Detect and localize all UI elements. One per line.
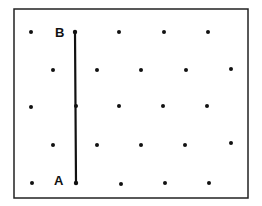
grid-dot: [117, 104, 121, 108]
grid-dot: [139, 68, 143, 72]
grid-dot: [206, 30, 210, 34]
grid-dot: [29, 30, 33, 34]
grid-dot: [229, 141, 233, 145]
diagram-frame: [14, 9, 248, 198]
grid-dot: [119, 182, 123, 186]
grid-dot: [207, 181, 211, 185]
grid-dot: [29, 105, 33, 109]
grid-dot: [183, 143, 187, 147]
grid-dot: [139, 143, 143, 147]
grid-dot: [184, 68, 188, 72]
grid-dot: [229, 67, 233, 71]
endpoint-a-dot: [74, 181, 78, 185]
point-label-a: A: [54, 173, 64, 188]
endpoint-b-dot: [73, 30, 77, 34]
grid-dots: [29, 30, 233, 186]
grid-dot: [117, 30, 121, 34]
point-label-b: B: [55, 25, 64, 40]
grid-dot: [30, 181, 34, 185]
grid-dot: [161, 104, 165, 108]
segment-ab: [75, 32, 76, 183]
grid-dot: [95, 68, 99, 72]
grid-dot: [51, 143, 55, 147]
grid-dot: [51, 68, 55, 72]
grid-dot: [162, 30, 166, 34]
grid-dot: [95, 143, 99, 147]
grid-dot: [205, 104, 209, 108]
grid-dot: [163, 181, 167, 185]
dot-grid-diagram: B A: [0, 0, 262, 206]
